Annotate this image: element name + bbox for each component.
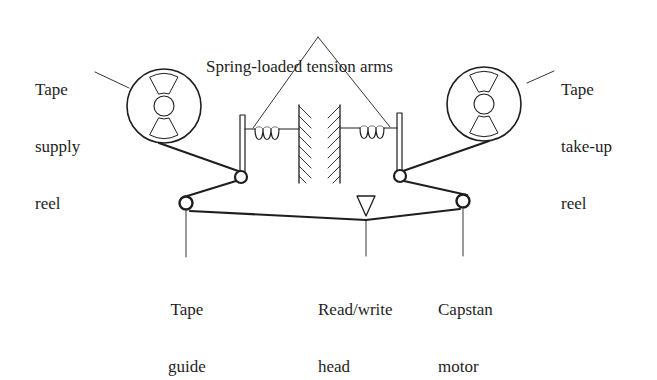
capstan-motor-line-1: Capstan [438,300,493,319]
label-read-write-head: Read/write head [318,262,393,380]
supply-reel-line-1: Tape [35,80,80,99]
label-supply-reel: Tape supply reel [35,42,80,251]
label-capstan-motor: Capstan motor [438,262,493,380]
tape-path [159,141,489,220]
label-tape-guide: Tape guide [156,262,218,380]
takeup-reel-line-2: take-up [561,137,612,156]
left-tension-arm [240,115,245,173]
capstan-roller-icon [457,195,470,208]
label-takeup-reel: Tape take-up reel [561,42,612,251]
tape-guide-line-1: Tape [156,300,218,319]
tape-guide-line-2: guide [156,357,218,376]
right-tension-arm [397,113,402,173]
right-arm-roller-icon [394,170,406,182]
right-fixed-wall [328,105,340,183]
tension-arms-text: Spring-loaded tension arms [206,57,393,76]
takeup-reel-icon [447,67,521,141]
left-fixed-wall [299,105,311,183]
read-write-head-icon [357,196,375,216]
tape-guide-roller-icon [180,197,193,210]
left-arm-roller-icon [235,171,247,183]
label-tension-arms: Spring-loaded tension arms [206,19,393,114]
right-spring-icon [340,126,397,139]
left-spring-icon [245,127,299,140]
takeup-reel-line-1: Tape [561,80,612,99]
supply-reel-line-2: supply [35,137,80,156]
takeup-reel-line-3: reel [561,194,612,213]
read-write-head-line-1: Read/write [318,300,393,319]
supply-reel-line-3: reel [35,194,80,213]
supply-reel-icon [127,69,201,143]
read-write-head-line-2: head [318,357,393,376]
capstan-motor-line-2: motor [438,357,493,376]
